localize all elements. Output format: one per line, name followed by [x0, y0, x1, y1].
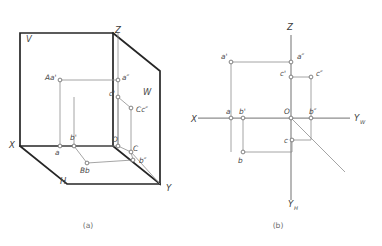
- axis-yw-subscript-b: W: [360, 119, 366, 125]
- node-b-O: [289, 116, 293, 120]
- label-Aa-prime: Aa': [44, 73, 57, 82]
- label-b-c-prime: c': [280, 69, 286, 78]
- label-b-b: b: [238, 156, 243, 165]
- label-b-dprime: b″: [139, 156, 147, 165]
- node-Bb: [85, 161, 89, 165]
- label-O: O: [112, 135, 118, 144]
- node-b-b: [241, 150, 245, 154]
- node-b-prime: [72, 144, 76, 148]
- projection-drawing: V W H Z X Y Aa' a″ c' Cc″ b' a O C b″ Bb: [0, 0, 382, 246]
- label-b-O: O: [284, 107, 290, 116]
- axis-x-label-a: X: [8, 140, 16, 150]
- diagram-a-nodes: [58, 78, 135, 165]
- caption-a: (a): [83, 221, 94, 230]
- axis-z-label-a: Z: [114, 25, 122, 35]
- node-b-a-prime: [229, 60, 233, 64]
- node-b-a: [229, 116, 233, 120]
- plane-h-outline: [20, 146, 160, 184]
- node-b-a-dprime: [289, 60, 293, 64]
- node-b-b-dprime: [309, 116, 313, 120]
- bisector-45-line: [291, 118, 345, 172]
- label-Cc-dprime: Cc″: [136, 105, 148, 114]
- diagram-b-group: Z X Y W Y H a' a″ c' c″ a b' O b″ c b: [190, 22, 366, 211]
- node-a-dprime: [116, 78, 120, 82]
- plane-w-label: W: [143, 87, 152, 97]
- label-b-b-prime: b': [239, 107, 246, 116]
- label-a: a: [55, 148, 60, 157]
- node-b-dprime: [131, 158, 135, 162]
- label-b-prime: b': [70, 133, 77, 142]
- plane-v-outline: [20, 33, 113, 146]
- label-a-dprime: a″: [122, 73, 130, 82]
- diagram-a-group: V W H Z X Y Aa' a″ c' Cc″ b' a O C b″ Bb: [8, 25, 172, 193]
- label-C: C: [133, 144, 139, 153]
- label-b-a-dprime: a″: [297, 52, 305, 61]
- line-Bb-to-bdprime: [87, 160, 133, 163]
- caption-b: (b): [273, 221, 284, 230]
- plane-h-label: H: [60, 176, 67, 186]
- label-b-b-dprime: b″: [309, 107, 317, 116]
- node-Aa-prime: [58, 78, 62, 82]
- line-bprime-to-Bb: [74, 146, 87, 163]
- node-O: [116, 144, 120, 148]
- axis-x-label-b: X: [190, 114, 198, 124]
- plane-v-label: V: [26, 34, 33, 44]
- label-b-c: c: [284, 136, 288, 145]
- node-c-prime: [116, 95, 120, 99]
- axis-yh-subscript-b: H: [294, 205, 298, 211]
- label-c-prime: c': [109, 89, 115, 98]
- node-b-c: [290, 138, 294, 142]
- node-b-c-dprime: [309, 75, 313, 79]
- label-Bb: Bb: [80, 166, 90, 175]
- label-b-a: a: [226, 107, 231, 116]
- node-b-b-prime: [241, 116, 245, 120]
- label-b-c-dprime: c″: [316, 69, 323, 78]
- axis-y-label-a: Y: [166, 183, 172, 193]
- line-cprime-to-Ccdprime: [118, 97, 131, 108]
- label-b-a-prime: a': [221, 52, 228, 61]
- node-Cc-dprime: [129, 106, 133, 110]
- axis-z-label-b: Z: [286, 22, 294, 32]
- node-b-c-prime: [289, 75, 293, 79]
- projection-figure: V W H Z X Y Aa' a″ c' Cc″ b' a O C b″ Bb: [0, 0, 382, 246]
